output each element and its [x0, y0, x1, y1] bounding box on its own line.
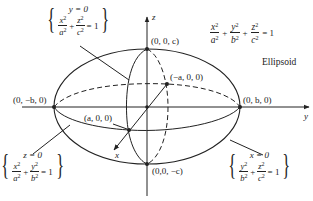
z-axis-label: z [152, 13, 156, 22]
right-brace-icon: } [102, 4, 110, 37]
point-front [127, 128, 131, 132]
point-bottom [145, 162, 149, 166]
eq-term-x: x2 a2 [210, 20, 219, 45]
eq-term-z: z2 c2 [251, 20, 260, 45]
point-back [165, 82, 169, 86]
eq-term-y: y2 b2 [230, 20, 239, 45]
ellipsoid-equation: x2 a2 + y2 b2 + z2 c2 = 1 [210, 20, 274, 45]
right-brace-icon: } [283, 150, 291, 183]
right-brace-icon: } [56, 150, 64, 183]
x-axis [114, 84, 167, 150]
left-brace-icon: { [47, 4, 55, 37]
left-brace-icon: { [228, 150, 236, 183]
point-top [145, 47, 149, 51]
trace-system-xz: { y = 0 x2a2 + z2c2 = 1 } [44, 4, 113, 37]
point-right [238, 105, 242, 109]
label-front-point: (a, 0, 0) [84, 114, 112, 123]
trace-system-xy: { z = 0 x2a2 + y2b2 = 1 } [0, 150, 67, 183]
label-right-point: (0, b, 0) [243, 96, 272, 105]
label-left-point: (0, −b, 0) [13, 96, 47, 105]
trace-system-yz: { x = 0 y2b2 + z2c2 = 1 } [225, 150, 294, 183]
y-axis-label: y [304, 112, 308, 121]
point-left [52, 105, 56, 109]
x-axis-label: x [115, 151, 119, 160]
label-back-point: (−a, 0, 0) [170, 73, 203, 82]
label-top-point: (0, 0, c) [151, 37, 179, 46]
leader-front-point [113, 124, 127, 129]
left-brace-icon: { [1, 150, 9, 183]
figure-title: Ellipsoid [262, 58, 296, 68]
point-origin [145, 105, 149, 109]
label-bottom-point: (0,0, −c) [152, 167, 183, 176]
